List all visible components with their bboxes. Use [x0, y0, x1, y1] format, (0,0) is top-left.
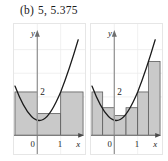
x-tick-label-1: 1: [58, 139, 62, 149]
y-tick-label-2: 2: [117, 87, 122, 97]
chart-panel-right: y x 0 1 2: [90, 23, 163, 155]
x-tick-label-0: 0: [108, 139, 113, 149]
riemann-rectangles-right: [92, 61, 160, 135]
figure-caption: (b)5, 5.375: [20, 4, 78, 16]
y-axis-arrow: [35, 30, 40, 37]
figure-root: (b)5, 5.375 y: [0, 0, 168, 161]
left-chart-svg: y x 0 1 2: [14, 24, 85, 154]
x-tick-label-1: 1: [135, 139, 139, 149]
x-axis-label: x: [75, 139, 80, 149]
riemann-rect: [138, 92, 149, 135]
chart-panel-left: y x 0 1 2: [13, 23, 86, 155]
riemann-rect: [114, 116, 126, 136]
riemann-rect: [37, 114, 60, 136]
riemann-rect: [148, 61, 160, 135]
riemann-rect: [61, 92, 83, 135]
riemann-rect: [15, 92, 37, 135]
y-tick-label-2: 2: [40, 87, 45, 97]
y-axis-label: y: [107, 28, 112, 38]
caption-values: 5, 5.375: [38, 4, 78, 16]
right-chart-svg: y x 0 1 2: [91, 24, 162, 154]
y-axis-label: y: [30, 28, 35, 38]
x-tick-label-0: 0: [31, 139, 36, 149]
x-axis-label: x: [152, 139, 157, 149]
y-axis-arrow: [112, 30, 117, 37]
caption-label: (b): [20, 4, 34, 16]
